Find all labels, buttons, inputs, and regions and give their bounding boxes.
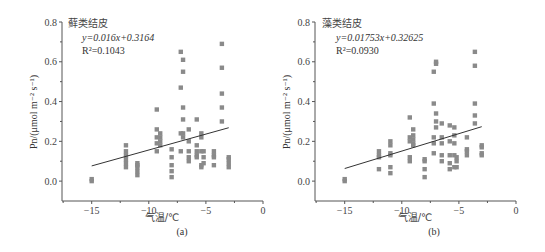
chart-b-ylabel: Pn/(μmol m⁻² s⁻¹) — [281, 75, 293, 149]
data-point — [440, 141, 444, 145]
data-point — [181, 105, 185, 109]
data-point — [135, 161, 139, 165]
data-point — [388, 165, 392, 169]
data-point — [377, 153, 381, 157]
data-point — [135, 169, 139, 173]
x-tick-label: −5 — [454, 205, 465, 216]
data-point — [212, 149, 216, 153]
data-point — [124, 143, 128, 147]
data-point — [135, 173, 139, 177]
data-point — [212, 155, 216, 159]
data-point — [155, 149, 159, 153]
data-point — [155, 127, 159, 131]
data-point — [124, 165, 128, 169]
data-point — [169, 163, 173, 167]
data-point — [158, 139, 162, 143]
figure: 藓类结皮 y=0.016x+0.3164 R²=0.1043 气温/℃ (a) … — [0, 0, 545, 252]
data-point — [448, 123, 452, 127]
y-tick-label: 0.4 — [45, 96, 58, 107]
data-point — [480, 153, 484, 157]
data-point — [432, 135, 436, 139]
data-point — [432, 70, 436, 74]
data-point — [181, 131, 185, 135]
data-point — [440, 121, 444, 125]
x-tick-label: −10 — [141, 205, 157, 216]
data-point — [124, 157, 128, 161]
chart-a-panel-label: (a) — [176, 226, 187, 238]
data-point — [227, 157, 231, 161]
chart-b-r2: R²=0.0930 — [336, 45, 379, 56]
x-tick-label: 0 — [261, 205, 266, 216]
data-point — [465, 149, 469, 153]
data-point — [434, 125, 438, 129]
data-point — [195, 143, 199, 147]
data-point — [473, 50, 477, 54]
data-point — [465, 153, 469, 157]
data-point — [480, 145, 484, 149]
y-tick-label: 0.2 — [298, 136, 311, 147]
data-point — [473, 64, 477, 68]
chart-b-title: 藻类结皮 — [322, 17, 362, 29]
data-point — [440, 153, 444, 157]
data-point — [181, 58, 185, 62]
data-point — [408, 159, 412, 163]
data-point — [227, 165, 231, 169]
data-point — [169, 155, 173, 159]
y-tick-label: 0.0 — [45, 176, 58, 187]
data-point — [422, 175, 426, 179]
y-tick-label: 0.0 — [298, 176, 311, 187]
data-point — [454, 159, 458, 163]
chart-a-r2: R²=0.1043 — [82, 45, 125, 56]
data-point — [473, 101, 477, 105]
y-tick-label: 0.4 — [298, 96, 311, 107]
data-point — [342, 177, 346, 181]
data-point — [187, 159, 191, 163]
data-point — [220, 119, 224, 123]
data-point — [169, 175, 173, 179]
data-point — [212, 163, 216, 167]
x-tick-label: −5 — [201, 205, 212, 216]
chart-b-equation: y=0.01753x+0.32625 — [335, 32, 423, 43]
y-tick-label: 0.8 — [45, 17, 58, 28]
data-point — [448, 161, 452, 165]
data-point — [187, 155, 191, 159]
data-point — [452, 141, 456, 145]
data-point — [220, 105, 224, 109]
data-point — [388, 139, 392, 143]
data-point — [388, 171, 392, 175]
data-point — [377, 149, 381, 153]
data-point — [452, 125, 456, 129]
data-point — [195, 117, 199, 121]
trend-line — [345, 127, 482, 169]
data-point — [181, 70, 185, 74]
data-point — [181, 117, 185, 121]
data-point — [434, 62, 438, 66]
data-point — [155, 107, 159, 111]
data-point — [448, 153, 452, 157]
y-tick-label: 0.6 — [298, 56, 311, 67]
data-point — [408, 115, 412, 119]
data-point — [201, 149, 205, 153]
data-point — [227, 161, 231, 165]
data-point — [422, 167, 426, 171]
data-point — [169, 147, 173, 151]
data-point — [408, 155, 412, 159]
x-tick-label: −10 — [394, 205, 410, 216]
data-point — [411, 133, 415, 137]
data-point — [377, 167, 381, 171]
data-point — [179, 149, 183, 153]
data-point — [473, 121, 477, 125]
x-tick-label: −15 — [337, 205, 353, 216]
data-point — [124, 161, 128, 165]
data-point — [422, 157, 426, 161]
data-point — [179, 50, 183, 54]
chart-a-ylabel: Pn/(μmol m⁻² s⁻¹) — [28, 75, 40, 149]
data-point — [434, 111, 438, 115]
data-point — [454, 165, 458, 169]
data-point — [195, 155, 199, 159]
x-tick-label: 0 — [514, 205, 519, 216]
chart-a: 藓类结皮 y=0.016x+0.3164 R²=0.1043 气温/℃ (a) … — [28, 17, 266, 239]
data-point — [440, 159, 444, 163]
data-point — [181, 135, 185, 139]
data-point — [158, 131, 162, 135]
